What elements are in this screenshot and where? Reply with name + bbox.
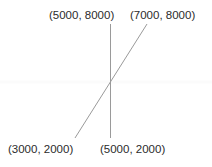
point-label-bottom-right: (5000, 2000) [100,143,165,156]
plot-canvas [0,0,212,167]
point-label-bottom-left: (3000, 2000) [8,143,73,156]
faint-horizontal-band [0,81,212,84]
point-label-top-left: (5000, 8000) [49,9,114,22]
point-label-top-right: (7000, 8000) [130,9,195,22]
line-segments-figure: (5000, 8000) (7000, 8000) (3000, 2000) (… [0,0,212,167]
